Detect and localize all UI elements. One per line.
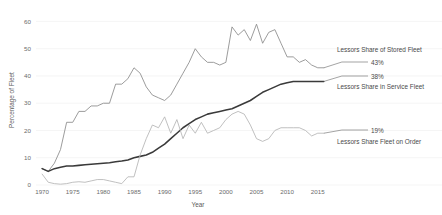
x-axis-tick-2015: 2015: [311, 188, 325, 195]
x-axis-tick-1995: 1995: [188, 188, 202, 195]
chart-container: 0102030405060 19701975198019851990199520…: [0, 0, 442, 215]
series-line-lessors-share-of-stored-fleet: [42, 24, 324, 171]
series-line-lessors-share-fleet-on-order: [42, 111, 324, 184]
y-axis-tick-10: 10: [24, 154, 31, 161]
y-axis-tick-50: 50: [24, 45, 31, 52]
annotation-leader-lines: [324, 62, 368, 133]
leader-line-0: [324, 62, 368, 68]
annotation-value-fleet-on-order: 19%: [371, 127, 384, 134]
y-axis-tick-30: 30: [24, 99, 31, 106]
leader-line-1: [324, 76, 368, 81]
x-axis-tick-1985: 1985: [127, 188, 141, 195]
annotation-label-stored-fleet: Lessors Share of Stored Fleet: [337, 46, 422, 53]
x-axis-tick-1970: 1970: [35, 188, 49, 195]
x-axis-title: Year: [192, 201, 206, 208]
x-axis-tick-2005: 2005: [250, 188, 264, 195]
annotation-value-stored-fleet: 43%: [371, 59, 384, 66]
line-chart: 0102030405060 19701975198019851990199520…: [0, 0, 442, 215]
annotation-label-fleet-on-order: Lessors Share Fleet on Order: [337, 138, 422, 145]
series-lines: [42, 24, 324, 184]
x-axis-tick-labels: 1970197519801985199019952000200520102015: [35, 188, 325, 195]
x-axis-tick-2000: 2000: [219, 188, 233, 195]
y-axis-tick-60: 60: [24, 18, 31, 25]
y-axis-tick-40: 40: [24, 72, 31, 79]
x-axis-tick-1980: 1980: [96, 188, 110, 195]
y-axis-tick-labels: 0102030405060: [24, 18, 31, 189]
y-axis-title: Percentage of Fleet: [8, 72, 16, 128]
annotation-value-in-service-fleet: 38%: [371, 73, 384, 80]
x-axis-tick-1975: 1975: [66, 188, 80, 195]
y-axis-tick-20: 20: [24, 127, 31, 134]
x-axis-tick-2010: 2010: [280, 188, 294, 195]
x-axis-tick-1990: 1990: [158, 188, 172, 195]
y-axis-tick-0: 0: [28, 181, 32, 188]
annotation-label-in-service-fleet: Lessors Share in Service Fleet: [337, 83, 424, 90]
